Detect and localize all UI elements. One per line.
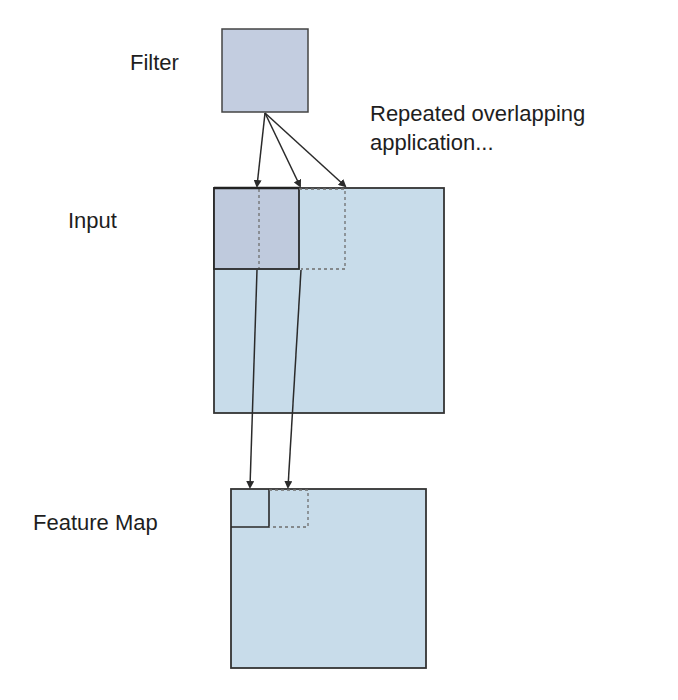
feature-map-box [231, 489, 426, 668]
filter-to-input-arrow-1 [257, 113, 265, 186]
input-receptive-field-1 [214, 188, 299, 269]
filter-box [222, 29, 308, 112]
filter-to-input-arrow-3 [265, 113, 345, 186]
filter-to-input-arrow-2 [265, 113, 300, 186]
convolution-diagram [0, 0, 678, 700]
